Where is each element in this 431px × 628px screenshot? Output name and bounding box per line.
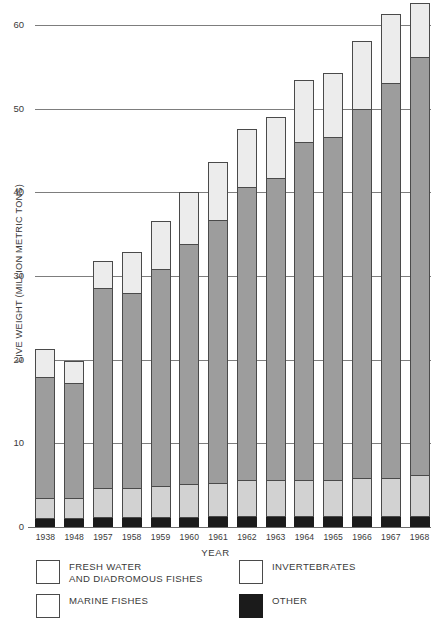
- bar-segment: [208, 220, 228, 484]
- bar-1963[interactable]: [266, 118, 286, 527]
- x-tick-label: 1966: [348, 532, 377, 542]
- bar-segment: [122, 293, 142, 490]
- legend-column-right: INVERTEBRATESOTHER: [239, 560, 356, 628]
- bar-segment: [237, 129, 257, 189]
- bar-segment: [93, 288, 113, 490]
- bar-segment: [294, 480, 314, 517]
- legend-item[interactable]: OTHER: [239, 594, 356, 618]
- y-tick-label: 20: [2, 355, 24, 365]
- bar-segment: [410, 3, 430, 58]
- x-tick-label: 1958: [117, 532, 146, 542]
- bar-1965[interactable]: [323, 74, 343, 527]
- bar-segment: [381, 478, 401, 517]
- x-tick-label: 1963: [261, 532, 290, 542]
- bar-segment: [151, 517, 171, 527]
- bar-1966[interactable]: [352, 42, 372, 527]
- y-tick-label: 10: [2, 438, 24, 448]
- x-tick-label: 1964: [290, 532, 319, 542]
- x-tick-label: 1968: [405, 532, 431, 542]
- bar-segment: [381, 516, 401, 527]
- bar-segment: [381, 14, 401, 84]
- bar-segment: [179, 517, 199, 527]
- bar-1962[interactable]: [237, 130, 257, 527]
- bar-segment: [323, 480, 343, 517]
- y-tick-label: 50: [2, 104, 24, 114]
- legend-item[interactable]: MARINE FISHES: [36, 594, 203, 618]
- legend-label: FRESH WATER AND DIADROMOUS FISHES: [69, 560, 203, 584]
- bar-segment: [122, 488, 142, 517]
- bar-segment: [352, 109, 372, 479]
- legend-item[interactable]: INVERTEBRATES: [239, 560, 356, 584]
- bar-segment: [237, 516, 257, 527]
- bar-segment: [64, 361, 84, 384]
- bar-segment: [208, 516, 228, 527]
- bar-segment: [352, 478, 372, 517]
- bar-1960[interactable]: [179, 193, 199, 527]
- bar-segment: [266, 516, 286, 527]
- bar-segment: [294, 80, 314, 143]
- y-tick-label: 40: [2, 187, 24, 197]
- bar-segment: [35, 498, 55, 519]
- bar-1961[interactable]: [208, 163, 228, 527]
- bar-segment: [122, 517, 142, 527]
- x-tick-label: 1962: [233, 532, 262, 542]
- x-tick-label: 1959: [146, 532, 175, 542]
- bar-segment: [237, 187, 257, 481]
- bar-segment: [64, 518, 84, 527]
- x-tick-label: 1967: [376, 532, 405, 542]
- bar-segment: [237, 480, 257, 517]
- legend-swatch-icon: [36, 594, 60, 618]
- bar-segment: [352, 41, 372, 111]
- bar-1958[interactable]: [122, 253, 142, 527]
- bar-1938[interactable]: [35, 350, 55, 527]
- bar-segment: [64, 498, 84, 520]
- y-tick-label: 60: [2, 20, 24, 30]
- bar-segment: [323, 137, 343, 481]
- bar-segment: [93, 488, 113, 517]
- bar-1957[interactable]: [93, 262, 113, 527]
- bar-segment: [35, 518, 55, 527]
- bar-1964[interactable]: [294, 81, 314, 527]
- legend: FRESH WATER AND DIADROMOUS FISHESMARINE …: [0, 560, 431, 628]
- legend-label: OTHER: [272, 594, 307, 607]
- bar-segment: [151, 221, 171, 271]
- bar-segment: [151, 486, 171, 518]
- bar-segment: [64, 383, 84, 499]
- bar-segment: [35, 349, 55, 378]
- bar-segment: [266, 480, 286, 517]
- legend-label: INVERTEBRATES: [272, 560, 356, 573]
- bar-segment: [208, 162, 228, 221]
- bar-segment: [151, 269, 171, 487]
- bar-segment: [179, 192, 199, 245]
- bar-segment: [294, 142, 314, 481]
- legend-column-left: FRESH WATER AND DIADROMOUS FISHESMARINE …: [36, 560, 203, 628]
- x-tick-label: 1960: [175, 532, 204, 542]
- legend-swatch-icon: [36, 560, 60, 584]
- stacked-bar-chart: LIVE WEIGHT (MILLION METRIC TONS) 010203…: [0, 0, 431, 628]
- x-tick-label: 1938: [31, 532, 60, 542]
- legend-swatch-icon: [239, 594, 263, 618]
- bar-segment: [294, 516, 314, 527]
- legend-label: MARINE FISHES: [69, 594, 148, 607]
- bar-1967[interactable]: [381, 15, 401, 527]
- bar-segment: [93, 261, 113, 289]
- legend-item[interactable]: FRESH WATER AND DIADROMOUS FISHES: [36, 560, 203, 584]
- y-tick-label: 0: [2, 522, 24, 532]
- bar-segment: [381, 83, 401, 480]
- bar-segment: [35, 377, 55, 498]
- axis-baseline: [28, 527, 431, 528]
- bar-1948[interactable]: [64, 362, 84, 527]
- y-tick-label: 30: [2, 271, 24, 281]
- bar-segment: [266, 117, 286, 179]
- bar-1968[interactable]: [410, 4, 430, 527]
- plot-area: 0102030405060 19381948195719581959196019…: [28, 0, 431, 528]
- bar-1959[interactable]: [151, 222, 171, 527]
- x-axis-title: YEAR: [0, 547, 431, 558]
- bar-segment: [410, 516, 430, 527]
- bar-segment: [323, 73, 343, 138]
- bar-segment: [323, 516, 343, 527]
- legend-swatch-icon: [239, 560, 263, 584]
- x-tick-label: 1957: [89, 532, 118, 542]
- bar-segment: [179, 484, 199, 518]
- x-tick-label: 1961: [204, 532, 233, 542]
